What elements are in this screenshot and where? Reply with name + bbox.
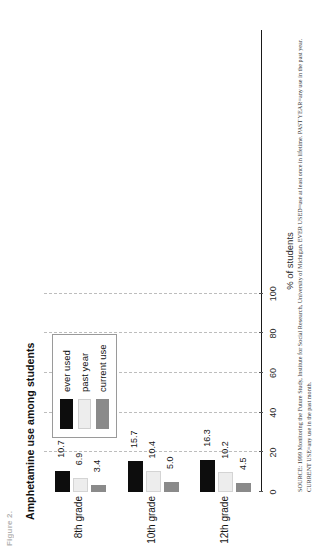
axis-tick bbox=[259, 332, 263, 333]
legend-swatch bbox=[60, 399, 73, 429]
legend-item: ever used bbox=[60, 344, 73, 429]
axis-tick-label: 80 bbox=[268, 328, 278, 338]
category-label: 8th grade bbox=[73, 496, 84, 538]
axis-tick bbox=[259, 491, 263, 492]
bar bbox=[55, 471, 70, 492]
bar-value-label: 15.7 bbox=[129, 430, 139, 448]
bar bbox=[128, 461, 143, 492]
axis-tick bbox=[259, 372, 263, 373]
legend-swatch bbox=[96, 399, 109, 429]
axis-tick-label: 60 bbox=[268, 368, 278, 378]
legend-swatch bbox=[78, 399, 91, 429]
category-label: 12th grade bbox=[219, 496, 230, 544]
bar bbox=[73, 478, 88, 492]
gridline bbox=[44, 332, 262, 333]
axis-tick-label: 100 bbox=[268, 286, 278, 301]
category-label: 10th grade bbox=[146, 496, 157, 544]
legend-label: past year bbox=[79, 353, 90, 392]
bar bbox=[146, 471, 161, 492]
bar-value-label: 4.5 bbox=[238, 458, 248, 471]
bar-value-label: 16.3 bbox=[202, 429, 212, 447]
legend-label: current use bbox=[97, 344, 108, 392]
bar bbox=[236, 483, 251, 492]
axis-tick bbox=[259, 412, 263, 413]
bar bbox=[218, 472, 233, 492]
bar-value-label: 10.2 bbox=[220, 441, 230, 459]
value-axis-title: % of students bbox=[284, 232, 295, 290]
bar-value-label: 3.4 bbox=[92, 460, 102, 473]
legend-item: current use bbox=[96, 344, 109, 429]
bar bbox=[200, 460, 215, 492]
chart-title: Amphetamine use among students bbox=[24, 343, 36, 520]
axis-tick-label: 20 bbox=[268, 447, 278, 457]
bar-value-label: 6.9 bbox=[74, 453, 84, 466]
figure-canvas: Figure 2. Amphetamine use among students… bbox=[0, 0, 325, 550]
axis-tick bbox=[259, 451, 263, 452]
axis-tick-label: 0 bbox=[268, 489, 278, 494]
legend-item: past year bbox=[78, 344, 91, 429]
bar-value-label: 5.0 bbox=[165, 457, 175, 470]
axis-tick bbox=[259, 293, 263, 294]
bar bbox=[164, 482, 179, 492]
axis-tick-label: 40 bbox=[268, 408, 278, 418]
bar-value-label: 10.7 bbox=[56, 440, 66, 458]
source-note: SOURCE: 1999 Monitoring the Future Study… bbox=[296, 32, 314, 492]
figure-number: Figure 2. bbox=[5, 511, 14, 546]
bar-value-label: 10.4 bbox=[147, 441, 157, 459]
bar bbox=[91, 485, 106, 492]
legend-label: ever used bbox=[61, 350, 72, 392]
chart-legend: ever usedpast yearcurrent use bbox=[52, 334, 117, 438]
gridline bbox=[44, 293, 262, 294]
value-axis-line bbox=[261, 30, 262, 492]
